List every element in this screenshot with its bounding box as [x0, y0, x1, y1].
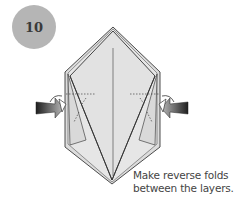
- origami-step-diagram: 10: [0, 0, 243, 207]
- reverse-fold-arrow-right: [159, 96, 188, 118]
- reverse-fold-arrow-left: [36, 96, 66, 118]
- instruction-caption: Make reverse folds between the layers.: [133, 169, 234, 195]
- caption-line-1: Make reverse folds: [133, 169, 234, 182]
- caption-line-2: between the layers.: [133, 182, 234, 195]
